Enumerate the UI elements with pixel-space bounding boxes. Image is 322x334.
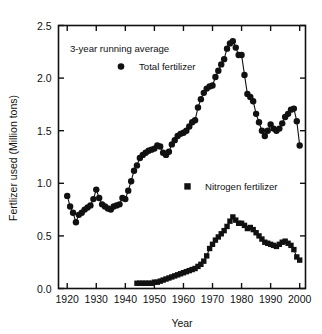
legend-marker-square-icon [184, 183, 190, 189]
data-point [96, 195, 102, 201]
legend-label-total-fertilizer: Total fertilizer [139, 61, 196, 72]
data-point [201, 258, 206, 263]
data-point [73, 219, 79, 225]
data-point [291, 105, 297, 111]
x-tick-label: 1980 [230, 293, 254, 305]
y-tick-label: 2.0 [37, 72, 52, 84]
legend-marker-circle-icon [118, 63, 125, 70]
data-point [294, 118, 300, 124]
data-point [212, 74, 218, 80]
data-point [291, 247, 296, 252]
data-point [166, 149, 172, 155]
data-point [253, 111, 259, 117]
x-tick-label: 1920 [56, 293, 80, 305]
data-point [241, 72, 247, 78]
data-point [134, 162, 140, 168]
y-tick-label: 1.0 [37, 177, 52, 189]
data-point [238, 52, 244, 58]
data-point [296, 142, 302, 148]
data-point [198, 96, 204, 102]
data-point [116, 201, 122, 207]
y-axis-title: Fertlizer used (Million tons) [7, 95, 19, 221]
x-tick-label: 1970 [201, 293, 225, 305]
data-point [122, 196, 128, 202]
fertilizer-usage-chart: 192019301940195019601970198019902000 0.0… [0, 0, 322, 334]
data-point [64, 193, 70, 199]
legend-label-nitrogen-fertilizer: Nitrogen fertilizer [205, 181, 278, 192]
data-point [224, 224, 229, 229]
x-tick-label: 1930 [85, 293, 109, 305]
data-point [125, 187, 131, 193]
x-tick-label: 1960 [172, 293, 196, 305]
data-point [70, 210, 76, 216]
data-point [230, 38, 236, 44]
running-average-annotation: 3-year running average [70, 43, 169, 54]
x-tick-label: 1990 [259, 293, 283, 305]
data-point [250, 98, 256, 104]
data-point [67, 203, 73, 209]
data-point [90, 196, 96, 202]
data-point [209, 82, 215, 88]
x-tick-label: 1950 [143, 293, 167, 305]
data-point [192, 117, 198, 123]
chart-canvas: 192019301940195019601970198019902000 0.0… [0, 0, 322, 334]
x-tick-label: 1940 [114, 293, 138, 305]
data-point [265, 128, 271, 134]
y-tick-label: 1.5 [37, 125, 52, 137]
data-point [128, 178, 134, 184]
data-point [195, 104, 201, 110]
data-point [204, 253, 209, 258]
y-tick-label: 2.5 [37, 20, 52, 32]
data-point [215, 68, 221, 74]
x-tick-label: 2000 [288, 293, 312, 305]
x-axis-tick-labels: 192019301940195019601970198019902000 [56, 293, 312, 305]
y-tick-label: 0.5 [37, 230, 52, 242]
data-point [157, 143, 163, 149]
data-point [256, 119, 262, 125]
data-point [87, 202, 93, 208]
data-point [221, 56, 227, 62]
x-axis-title: Year [171, 317, 193, 329]
data-point [297, 257, 302, 262]
data-point [233, 44, 239, 50]
data-point [93, 186, 99, 192]
data-point [279, 120, 285, 126]
y-tick-label: 0.0 [37, 283, 52, 295]
